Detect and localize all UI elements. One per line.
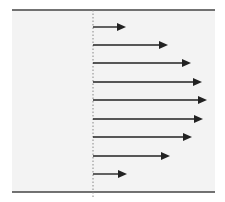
- velocity-profile-diagram: [0, 0, 225, 202]
- fluid-region: [12, 10, 215, 192]
